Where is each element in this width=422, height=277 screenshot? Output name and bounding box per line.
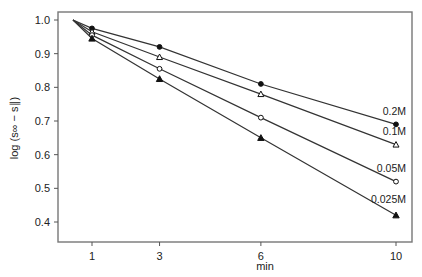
y-tick-label: 0.4 <box>35 216 50 228</box>
y-tick-label: 0.5 <box>35 182 50 194</box>
line-chart: 1.00.90.80.70.60.50.413610minlog (s∞ − s… <box>0 0 422 277</box>
marker-filled-triangle <box>393 212 399 218</box>
series-label: 0.2M <box>383 105 406 117</box>
marker-open-circle <box>157 66 162 71</box>
chart: 1.00.90.80.70.60.50.413610minlog (s∞ − s… <box>0 0 422 277</box>
marker-open-circle <box>258 115 263 120</box>
series-label: 0.1M <box>383 125 406 137</box>
series-0_1M: 0.1M <box>73 20 406 147</box>
marker-open-circle <box>394 179 399 184</box>
y-axis: 1.00.90.80.70.60.50.4 <box>35 14 58 228</box>
series-label: 0.05M <box>377 162 406 174</box>
x-axis: 13610 <box>89 242 402 262</box>
series-0_05M: 0.05M <box>73 20 406 184</box>
x-tick-label: 10 <box>390 250 402 262</box>
x-tick-label: 1 <box>89 250 95 262</box>
y-tick-label: 1.0 <box>35 14 50 26</box>
series-label: 0.025M <box>371 193 406 205</box>
plot-frame <box>58 12 412 242</box>
marker-filled-circle <box>157 45 162 50</box>
marker-filled-triangle <box>156 76 162 82</box>
series-0_2M: 0.2M <box>73 20 406 127</box>
y-tick-label: 0.8 <box>35 81 50 93</box>
x-axis-label: min <box>256 260 274 272</box>
y-tick-label: 0.7 <box>35 115 50 127</box>
series-0_025M: 0.025M <box>73 20 406 218</box>
marker-filled-circle <box>258 82 263 87</box>
y-tick-label: 0.6 <box>35 149 50 161</box>
y-axis-label: log (s∞ − s∥) <box>8 97 21 159</box>
x-tick-label: 3 <box>156 250 162 262</box>
marker-filled-triangle <box>258 135 264 141</box>
y-tick-label: 0.9 <box>35 48 50 60</box>
